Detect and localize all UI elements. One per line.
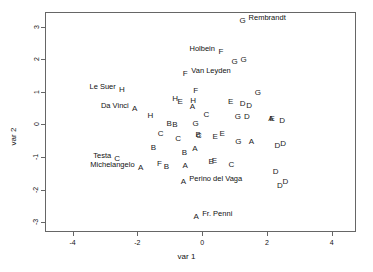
data-point: B	[151, 144, 156, 152]
y-axis-tick	[41, 190, 45, 191]
point-annotation: Holbein	[189, 45, 214, 53]
y-axis-tick-label-text: -3	[32, 219, 40, 225]
y-axis-tick-label-text: 0	[33, 122, 41, 126]
data-point: F	[193, 87, 198, 95]
data-point: C	[196, 132, 202, 140]
data-point: F	[218, 48, 223, 56]
y-axis-tick-label-text: 2	[33, 57, 41, 61]
y-axis-tick-label: -2	[31, 186, 39, 194]
x-axis-tick	[73, 232, 74, 236]
data-point: D	[279, 117, 285, 125]
point-annotation: Perino del Vaga	[189, 175, 242, 183]
data-point: A	[249, 138, 254, 146]
data-point: E	[177, 98, 182, 106]
x-axis-tick	[137, 232, 138, 236]
x-axis-tick-label: 4	[330, 239, 334, 247]
data-point: C	[158, 130, 164, 138]
data-point: F	[183, 70, 188, 78]
data-point: D	[240, 100, 246, 108]
point-annotation: Michelangelo	[90, 161, 134, 169]
data-point: G	[239, 17, 245, 25]
data-point: H	[147, 112, 153, 120]
data-point: E	[212, 133, 217, 141]
data-point: A	[192, 145, 197, 153]
x-axis-tick-label: -2	[134, 239, 140, 247]
y-axis-label-wrap: var 2	[8, 0, 20, 272]
data-point: D	[277, 182, 283, 190]
y-axis-tick	[41, 124, 45, 125]
data-point: H	[119, 86, 125, 94]
y-axis-tick	[41, 222, 45, 223]
data-point: C	[203, 111, 209, 119]
data-point: E	[220, 130, 225, 138]
y-axis-tick-label: 2	[31, 55, 39, 63]
x-axis-tick	[202, 232, 203, 236]
data-point: B	[166, 120, 171, 128]
data-point: G	[255, 89, 261, 97]
point-annotation: Fr. Penni	[202, 210, 232, 218]
data-point: E	[228, 98, 233, 106]
data-point: G	[235, 138, 241, 146]
scatter-plot-figure: GFGGFHFGHEHEDDAAHCGDAEDBBGCBCEECGADDBABC…	[0, 0, 373, 272]
y-axis-tick	[41, 92, 45, 93]
data-point: A	[194, 213, 199, 221]
point-annotation: Van Leyden	[191, 67, 230, 75]
y-axis-tick-label: 1	[31, 88, 39, 96]
y-axis-tick-label-text: 1	[33, 90, 41, 94]
x-axis-tick-label: 2	[265, 239, 269, 247]
y-axis-tick-label: -1	[31, 153, 39, 161]
y-axis-tick	[41, 59, 45, 60]
x-axis-tick	[267, 232, 268, 236]
data-point: A	[138, 164, 143, 172]
data-point: G	[235, 113, 241, 121]
point-annotation: Da Vinci	[101, 102, 129, 110]
x-axis-label: var 1	[0, 252, 373, 261]
data-point: B	[182, 149, 187, 157]
data-point: G	[231, 58, 237, 66]
data-point: D	[282, 178, 288, 186]
y-axis-tick-label: 3	[31, 23, 39, 31]
x-axis-tick-label: -4	[69, 239, 75, 247]
data-point: B	[172, 121, 177, 129]
y-axis-tick	[41, 157, 45, 158]
x-axis-tick-label: 0	[200, 239, 204, 247]
data-point: E	[209, 158, 214, 166]
data-point: A	[132, 105, 137, 113]
data-point: G	[240, 56, 246, 64]
x-axis-tick	[332, 232, 333, 236]
point-annotation: Rembrandt	[249, 14, 286, 22]
y-axis-tick-label: -3	[31, 218, 39, 226]
data-point: F	[157, 160, 162, 168]
data-point: D	[274, 142, 280, 150]
data-point: B	[164, 163, 169, 171]
data-point: A	[181, 178, 186, 186]
data-point: C	[228, 161, 234, 169]
data-points-layer: GFGGFHFGHEHEDDAAHCGDAEDBBGCBCEECGADDBABC…	[45, 12, 356, 232]
y-axis-tick-label-text: -1	[32, 154, 40, 160]
y-axis-tick-label-text: -2	[32, 187, 40, 193]
y-axis-tick	[41, 27, 45, 28]
data-point: D	[244, 113, 250, 121]
data-point: E	[269, 115, 274, 123]
data-point: D	[273, 168, 279, 176]
point-annotation: Le Suer	[89, 83, 115, 91]
y-axis-tick-label: 0	[31, 120, 39, 128]
data-point: D	[280, 140, 286, 148]
y-axis-tick-label-text: 3	[33, 25, 41, 29]
data-point: D	[246, 102, 252, 110]
data-point: G	[193, 120, 199, 128]
data-point: A	[190, 103, 195, 111]
data-point: A	[183, 162, 188, 170]
data-point: C	[175, 135, 181, 143]
y-axis-label: var 2	[10, 127, 19, 145]
